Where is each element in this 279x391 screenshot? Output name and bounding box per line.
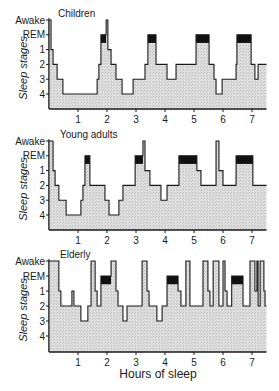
x-tick-label: 3	[133, 235, 139, 246]
y-tick-label: 1	[39, 165, 45, 176]
y-tick-label: 1	[39, 44, 45, 55]
rem-bar	[167, 276, 178, 284]
rem-bar	[236, 156, 253, 164]
y-tick-label: 4	[39, 210, 45, 221]
y-tick-label: 1	[39, 286, 45, 297]
x-tick-label: 4	[162, 235, 168, 246]
y-tick-label: 2	[39, 301, 45, 312]
y-axis-title: Sleep stages	[17, 36, 29, 100]
rem-bar	[101, 35, 106, 43]
x-axis: 1234567	[49, 230, 267, 246]
panel-title: Children	[58, 8, 95, 19]
rem-bar	[101, 276, 111, 284]
x-axis: 1234567	[49, 352, 267, 368]
y-tick-label: Awake	[15, 256, 45, 267]
x-tick-label: 4	[162, 114, 168, 125]
x-tick-label: 3	[133, 114, 139, 125]
x-tick-label: 7	[249, 235, 255, 246]
x-tick-label: 2	[104, 235, 110, 246]
y-axis-title: Sleep stages	[17, 278, 29, 342]
x-tick-label: 2	[104, 357, 110, 368]
y-tick-label: 3	[39, 316, 45, 327]
x-tick-label: 5	[191, 114, 197, 125]
y-tick-label: Awake	[15, 136, 45, 147]
sleep-area	[49, 261, 267, 352]
y-tick-label: 3	[39, 195, 45, 206]
x-axis-title: Hours of sleep	[119, 367, 197, 381]
rem-bar	[135, 156, 143, 164]
x-tick-label: 5	[191, 235, 197, 246]
panel-elderly: Elderly AwakeREM1234 Sleep stages 123456…	[15, 249, 266, 368]
x-tick-label: 6	[220, 114, 226, 125]
x-tick-label: 6	[220, 357, 226, 368]
y-tick-label: 2	[39, 59, 45, 70]
x-tick-label: 1	[75, 235, 81, 246]
hypnogram-plot	[49, 20, 267, 109]
panel-children: Children AwakeREM1234 Sleep stages 12345…	[15, 8, 266, 125]
y-tick-label: 2	[39, 180, 45, 191]
rem-bar	[85, 156, 90, 164]
y-tick-label: 4	[39, 331, 45, 342]
panel-title: Elderly	[60, 249, 91, 260]
x-tick-label: 6	[220, 235, 226, 246]
y-tick-label: Awake	[15, 15, 45, 26]
y-axis-title: Sleep stages	[17, 157, 29, 221]
y-tick-label: 3	[39, 74, 45, 85]
rem-bar	[196, 35, 209, 43]
hypnogram-plot	[49, 141, 267, 230]
x-axis: 1234567	[49, 109, 267, 125]
y-tick-label: 4	[39, 89, 45, 100]
hypnogram-figure: Children AwakeREM1234 Sleep stages 12345…	[0, 0, 279, 391]
x-tick-label: 2	[104, 114, 110, 125]
rem-bar	[148, 35, 156, 43]
x-tick-label: 1	[75, 114, 81, 125]
x-tick-label: 7	[249, 357, 255, 368]
rem-bar	[232, 276, 243, 284]
rem-bar	[237, 35, 251, 43]
panel-title: Young adults	[60, 129, 117, 140]
x-tick-label: 7	[249, 114, 255, 125]
panel-young-adults: Young adults AwakeREM1234 Sleep stages 1…	[15, 129, 266, 246]
x-tick-label: 1	[75, 357, 81, 368]
rem-bar	[179, 156, 197, 164]
hypnogram-plot	[49, 261, 267, 352]
